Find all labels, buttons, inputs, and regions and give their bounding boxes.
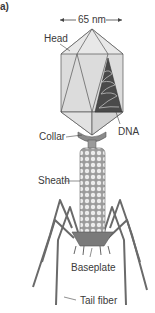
collar-label: Collar — [39, 132, 65, 142]
baseplate-label: Baseplate — [71, 263, 115, 273]
dna-label: DNA — [118, 127, 139, 137]
dimension-label: 65 nm — [78, 15, 106, 25]
baseplate — [72, 232, 113, 255]
sheath-label: Sheath — [38, 176, 70, 186]
tail-fiber-label: Tail fiber — [80, 296, 117, 306]
head-label: Head — [44, 34, 68, 44]
panel-label: a) — [0, 2, 9, 12]
tail-sheath — [80, 148, 105, 240]
